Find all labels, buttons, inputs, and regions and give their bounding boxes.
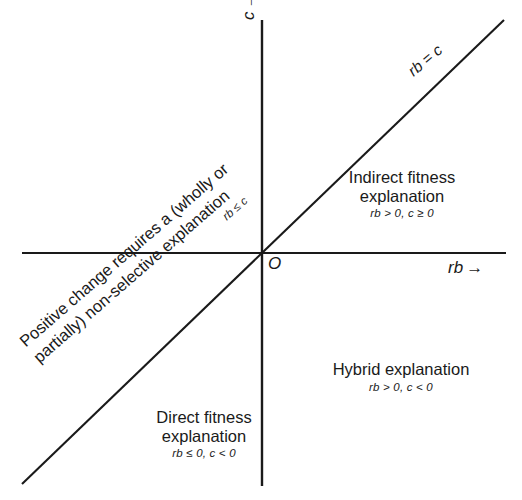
y-axis-arrow-icon: → [239,0,258,12]
x-axis-label: rb→ [448,258,483,278]
direct-fitness-line-1: Direct fitness [116,408,292,427]
direct-fitness-condition: rb ≤ 0, c < 0 [116,447,292,460]
x-axis-arrow-icon: → [463,258,483,277]
hybrid-explanation-line-1: Hybrid explanation [306,360,496,379]
hybrid-explanation-condition: rb > 0, c < 0 [306,381,496,394]
y-axis-label: c→ [239,0,259,20]
indirect-fitness-condition: rb > 0, c ≥ 0 [314,207,490,220]
fitness-explanation-diagram: c→ rb→ O rb = c Positive change requires… [0,0,522,500]
indirect-fitness-line-1: Indirect fitness [314,168,490,187]
x-axis-label-text: rb [448,258,463,277]
hybrid-explanation-label: Hybrid explanation rb > 0, c < 0 [306,360,496,394]
indirect-fitness-line-2: explanation [314,187,490,206]
y-axis-label-text: c [239,12,258,21]
indirect-fitness-label: Indirect fitness explanation rb > 0, c ≥… [314,168,490,220]
direct-fitness-line-2: explanation [116,427,292,446]
origin-label: O [268,254,281,274]
direct-fitness-label: Direct fitness explanation rb ≤ 0, c < 0 [116,408,292,460]
